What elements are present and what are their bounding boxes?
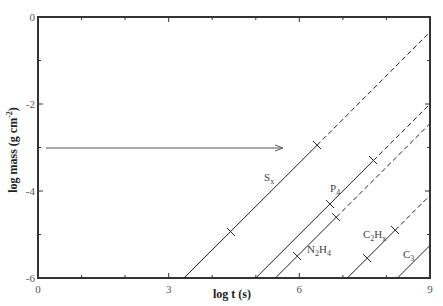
arrow-annotation <box>46 145 283 151</box>
series-sx <box>184 32 430 278</box>
label-p4: P4 <box>330 182 340 197</box>
y-axis-title: log mass (g cm-2) <box>5 107 20 193</box>
y-tick-label-neg6: -6 <box>26 272 36 284</box>
x-tick-label-0: 0 <box>35 283 41 295</box>
x-tick-label-6: 6 <box>297 283 303 295</box>
x-tick-label-3: 3 <box>166 283 172 295</box>
label-c3: C3 <box>403 248 414 263</box>
label-c2hx: C2Hx <box>363 228 386 243</box>
y-tick-label-0: 0 <box>30 11 36 23</box>
x-tick-label-9: 9 <box>427 283 433 295</box>
label-n2h4: N2H4 <box>307 243 331 258</box>
y-tick-label-neg4: -4 <box>26 185 36 197</box>
y-tick-label-neg2: -2 <box>26 98 35 110</box>
series-c2hx <box>347 195 430 278</box>
chart: 0 3 6 9 0 -2 -4 -6 log t (s) log mass (g… <box>0 0 443 306</box>
label-sx: Sx <box>264 171 274 186</box>
x-axis-title: log t (s) <box>213 287 251 301</box>
